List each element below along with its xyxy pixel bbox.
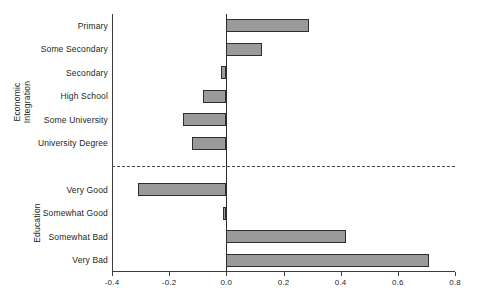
x-axis-tick-label: 0.0: [220, 278, 232, 287]
left-axis-spine: [112, 14, 113, 272]
bar: [183, 113, 226, 126]
x-axis-tick-label: -0.2: [162, 278, 177, 287]
x-axis-tick-label: 0.4: [335, 278, 347, 287]
plot-area: -0.4-0.20.00.20.40.60.8: [112, 14, 455, 272]
category-axis-tick-label: Very Bad: [72, 255, 108, 265]
group-separator-line: [112, 166, 455, 167]
x-axis-tick-label: 0.6: [392, 278, 404, 287]
bar: [192, 137, 226, 150]
bar: [226, 43, 262, 56]
x-axis-tick-label: -0.4: [105, 278, 120, 287]
x-axis-tick-mark: [455, 272, 456, 276]
bar: [221, 66, 227, 79]
bar: [223, 207, 226, 220]
bar: [203, 90, 226, 103]
category-axis-tick-label: Secondary: [66, 68, 108, 78]
category-axis-tick-label: Primary: [78, 21, 108, 31]
bar: [226, 19, 309, 32]
bar: [138, 183, 227, 196]
x-axis-tick-mark: [398, 272, 399, 276]
x-axis-tick-label: 0.8: [449, 278, 461, 287]
category-axis-tick-label: Somewhat Good: [43, 208, 108, 218]
category-axis-tick-label: Some University: [44, 115, 108, 125]
x-axis-tick-mark: [112, 272, 113, 276]
x-axis-tick-mark: [226, 272, 227, 276]
category-axis-labels: PrimarySome SecondarySecondaryHigh Schoo…: [0, 0, 108, 299]
category-axis-tick-label: University Degree: [38, 138, 108, 148]
bar: [226, 230, 346, 243]
category-axis-tick-label: Somewhat Bad: [49, 232, 108, 242]
category-axis-tick-label: Some Secondary: [41, 44, 108, 54]
chart-container: Economic Integration Education PrimarySo…: [0, 0, 477, 299]
category-axis-tick-label: Very Good: [66, 185, 108, 195]
bar: [226, 254, 429, 267]
x-axis-tick-label: 0.2: [278, 278, 290, 287]
x-axis-tick-mark: [341, 272, 342, 276]
x-axis-tick-mark: [169, 272, 170, 276]
category-axis-tick-label: High School: [61, 91, 108, 101]
x-axis-tick-mark: [284, 272, 285, 276]
